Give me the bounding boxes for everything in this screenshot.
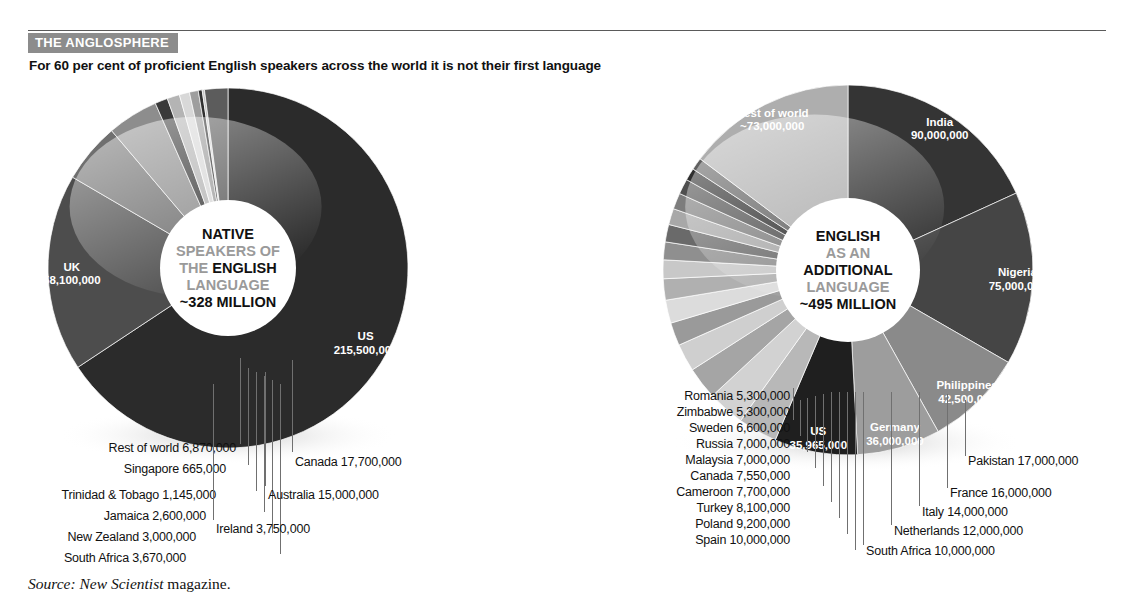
leader-right-left-4: [815, 396, 816, 468]
slice-label-name: Nigeria: [998, 266, 1038, 278]
slice-label-value: 36,000,000: [866, 435, 924, 447]
leader-right-right-3: [891, 392, 892, 525]
callout-left-right-1: Australia 15,000,000: [268, 489, 379, 502]
slice-label-value: 90,000,000: [911, 129, 969, 141]
leader-right-right-4: [863, 392, 864, 545]
callout-right-left-6: Cameroon 7,700,000: [676, 486, 790, 499]
hub-line: AS AN: [826, 245, 871, 261]
chart-left-svg: NATIVESPEAKERS OFTHE ENGLISHLANGUAGE~328…: [36, 80, 496, 460]
leader-right-left-5: [823, 394, 824, 486]
leader-right-right-1: [947, 394, 948, 488]
leader-left-0: [240, 358, 241, 444]
subheadline: For 60 per cent of proficient English sp…: [29, 58, 601, 73]
leader-left-right-1: [265, 372, 266, 486]
slice-label-name: Philippines: [936, 379, 997, 391]
slice-label-name: India: [926, 116, 953, 128]
leader-right-left-2: [800, 400, 801, 436]
callout-right-left-1: Zimbabwe 5,300,000: [677, 406, 790, 419]
leader-right-left-8: [847, 392, 848, 534]
slice-label-name: UK: [64, 261, 81, 273]
hub-line: ADDITIONAL: [803, 262, 893, 278]
callout-right-right-0: Pakistan 17,000,000: [968, 455, 1078, 468]
kicker-badge: THE ANGLOSPHERE: [28, 33, 178, 53]
hub-line: SPEAKERS OF: [176, 243, 280, 259]
hub-line: ~328 MILLION: [180, 294, 276, 310]
slice-label-value: 75,000,000: [989, 280, 1047, 292]
hub-line: LANGUAGE: [807, 279, 890, 295]
callout-right-right-4: South Africa 10,000,000: [866, 545, 995, 558]
leader-right-left-6: [831, 392, 832, 502]
leader-right-left-3: [807, 398, 808, 452]
callout-left-0: Rest of world 6,870,000: [109, 442, 236, 455]
leader-left-1: [248, 368, 249, 465]
chart-right-svg: ENGLISHAS ANADDITIONALLANGUAGE~495 MILLI…: [600, 80, 1100, 470]
callout-right-left-9: Spain 10,000,000: [695, 534, 790, 547]
slice-label-name: Rest of world: [736, 107, 809, 119]
callout-left-right-2: Ireland 3,750,000: [216, 523, 310, 536]
callout-right-left-0: Romania 5,300,000: [684, 390, 790, 403]
callout-left-right-0: Canada 17,700,000: [295, 456, 401, 469]
callout-right-right-3: Netherlands 12,000,000: [894, 525, 1023, 538]
leader-right-left-0: [793, 388, 794, 404]
callout-right-right-2: Italy 14,000,000: [922, 506, 1008, 519]
leader-right-right-2: [919, 392, 920, 506]
source-note: Source: New Scientist magazine.: [28, 575, 231, 593]
chart-additional-language: ENGLISHAS ANADDITIONALLANGUAGE~495 MILLI…: [600, 80, 1100, 470]
slice-label-value: 58,100,000: [43, 274, 101, 286]
hub-line: LANGUAGE: [187, 277, 270, 293]
hub-line: NATIVE: [202, 226, 254, 242]
source-name: New Scientist: [80, 575, 164, 592]
hub-line: ENGLISH: [816, 228, 880, 244]
callout-right-left-7: Turkey 8,100,000: [696, 502, 790, 515]
header-rule: [28, 30, 1106, 31]
slice-label-name: US: [810, 425, 826, 437]
leader-right-left-9: [855, 392, 856, 550]
callout-left-3: Jamaica 2,600,000: [104, 510, 206, 523]
leader-left-4: [272, 380, 273, 533]
leader-right-left-1: [793, 404, 794, 420]
callout-left-2: Trinidad & Tobago 1,145,000: [62, 489, 216, 502]
leader-right-left-7: [839, 392, 840, 518]
leader-left-2: [256, 372, 257, 491]
slice-label-name: US: [358, 330, 374, 342]
chart-native-speakers: NATIVESPEAKERS OFTHE ENGLISHLANGUAGE~328…: [36, 80, 496, 460]
source-suffix: magazine.: [167, 575, 230, 592]
slice-label-value: ~73,000,000: [740, 120, 804, 132]
hub-line: THE ENGLISH: [179, 260, 276, 276]
source-prefix: Source:: [28, 575, 76, 592]
callout-right-left-8: Poland 9,200,000: [695, 518, 790, 531]
leader-left-right-2: [213, 384, 214, 520]
callout-left-4: New Zealand 3,000,000: [67, 531, 196, 544]
callout-right-left-5: Canada 7,550,000: [690, 470, 790, 483]
callout-right-left-3: Russia 7,000,000: [696, 438, 790, 451]
slice-label-name: Germany: [870, 421, 920, 433]
callout-right-right-1: France 16,000,000: [950, 487, 1052, 500]
hub-line: ~495 MILLION: [800, 296, 896, 312]
slice-label-value: 215,500,000: [334, 344, 398, 356]
leader-left-right-0: [292, 360, 293, 452]
infographic-page: THE ANGLOSPHERE For 60 per cent of profi…: [0, 0, 1133, 606]
callout-right-left-2: Sweden 6,600,000: [689, 422, 790, 435]
leader-right-right-0: [965, 400, 966, 456]
callout-left-1: Singapore 665,000: [124, 463, 226, 476]
callout-left-5: South Africa 3,670,000: [64, 552, 186, 565]
callout-right-left-4: Malaysia 7,000,000: [685, 454, 790, 467]
